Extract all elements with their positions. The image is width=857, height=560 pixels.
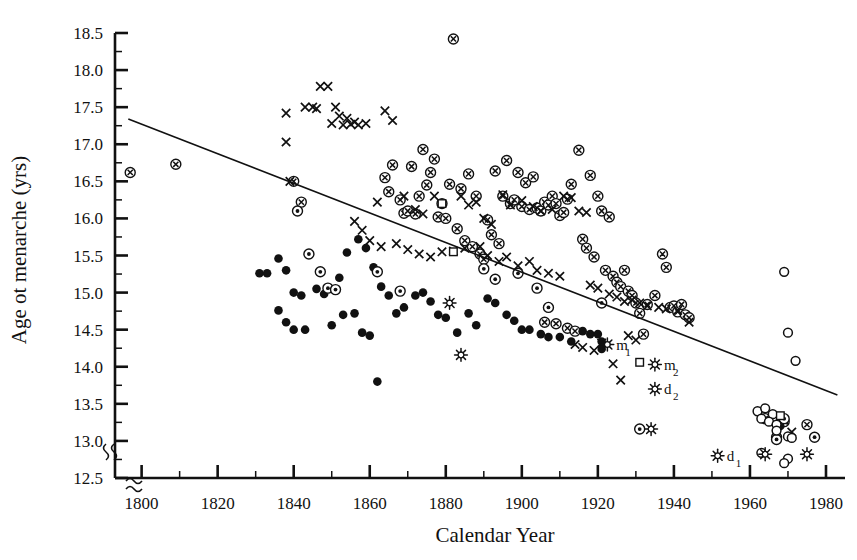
data-point: [282, 266, 291, 275]
data-point: [372, 267, 382, 277]
data-point: [613, 293, 621, 301]
data-point: [578, 343, 586, 351]
data-point: [543, 302, 553, 312]
data-point: [787, 434, 796, 443]
data-point: [636, 359, 644, 367]
point-annotations: m1m2d2d1: [616, 337, 741, 469]
x-tick-label: 1800: [125, 494, 159, 513]
data-point: [365, 331, 374, 340]
data-point: [533, 266, 541, 274]
annotation-label: d: [664, 381, 672, 397]
data-point: [784, 328, 793, 337]
y-tick-label: 17.5: [73, 98, 103, 117]
data-point: [578, 327, 587, 336]
data-point: [532, 283, 542, 293]
data-point: [388, 116, 396, 124]
data-point: [528, 172, 538, 182]
data-point: [452, 224, 462, 234]
data-point: [422, 180, 432, 190]
data-point: [491, 299, 500, 308]
data-point: [464, 201, 472, 209]
data-point: [638, 329, 648, 339]
data-point: [711, 449, 724, 462]
trend-line: [128, 119, 837, 395]
x-tick-labels: 1800182018401860188019001920194019601980: [125, 494, 843, 513]
data-point: [593, 191, 603, 201]
data-point: [441, 314, 450, 323]
data-point: [566, 179, 576, 189]
data-point: [801, 448, 814, 461]
data-point: [559, 207, 569, 217]
x-tick-label: 1900: [505, 494, 539, 513]
y-tick-label: 13.5: [73, 395, 103, 414]
data-point: [448, 34, 458, 44]
data-point: [620, 297, 628, 305]
y-tick-label: 18.5: [73, 24, 103, 43]
data-point: [632, 336, 640, 344]
data-point: [263, 269, 272, 278]
data-point: [540, 317, 550, 327]
data-point: [649, 358, 662, 371]
y-tick-label: 14.5: [73, 321, 103, 340]
data-point: [377, 242, 385, 250]
data-point: [282, 138, 290, 146]
plot-area: 1800182018401860188019001920194019601980…: [73, 24, 845, 513]
annotation-subscript: 2: [673, 390, 679, 402]
data-point: [312, 285, 321, 294]
data-point: [358, 226, 366, 234]
data-point: [381, 107, 389, 115]
data-point: [589, 252, 599, 262]
series-circled-x: [125, 34, 812, 442]
data-point: [366, 236, 374, 244]
data-point: [373, 377, 382, 386]
data-point: [434, 311, 443, 320]
data-point: [635, 424, 645, 434]
y-tick-label: 13.0: [73, 432, 103, 451]
data-point: [358, 328, 367, 337]
data-point: [335, 112, 343, 120]
data-point: [328, 119, 336, 127]
data-point: [274, 306, 283, 315]
data-point: [586, 281, 594, 289]
data-point: [655, 303, 663, 311]
data-point: [315, 267, 325, 277]
y-tick-label: 17.0: [73, 135, 103, 154]
data-point: [297, 291, 306, 300]
data-point: [455, 348, 468, 361]
data-point: [601, 338, 614, 351]
data-point: [377, 282, 386, 291]
data-point: [453, 328, 462, 337]
data-point: [483, 294, 492, 303]
x-axis-title: Calendar Year: [436, 523, 555, 547]
data-point: [443, 297, 456, 310]
series-star: [443, 297, 813, 463]
data-point: [404, 245, 412, 253]
data-point: [450, 248, 458, 256]
scatter-chart: 1800182018401860188019001920194019601980…: [0, 0, 857, 560]
data-point: [350, 309, 359, 318]
data-point: [502, 253, 510, 261]
data-point: [335, 273, 344, 282]
data-point: [301, 103, 309, 111]
data-point: [619, 265, 629, 275]
data-point: [327, 321, 336, 330]
y-tick-label: 15.5: [73, 247, 103, 266]
data-point: [441, 213, 451, 223]
data-point: [759, 448, 772, 461]
data-point: [586, 330, 595, 339]
data-point: [293, 206, 303, 216]
data-point: [426, 167, 436, 177]
data-point: [544, 269, 552, 277]
data-point: [810, 432, 820, 442]
data-point: [585, 170, 595, 180]
chart-container: 1800182018401860188019001920194019601980…: [0, 0, 857, 560]
data-point: [384, 187, 394, 197]
data-point: [609, 360, 617, 368]
x-tick-label: 1860: [353, 494, 387, 513]
y-tick-label: 18.0: [73, 61, 103, 80]
data-point: [400, 303, 409, 312]
data-point: [772, 434, 782, 444]
data-point: [438, 200, 446, 208]
data-point: [429, 154, 439, 164]
data-point: [289, 288, 298, 297]
